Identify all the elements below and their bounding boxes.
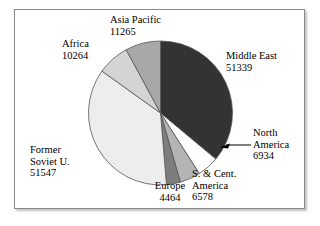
former-soviet-name-line2: Soviet U. (30, 156, 70, 168)
former-soviet-name-line1: Former (30, 144, 70, 156)
europe-name: Europe (148, 180, 192, 192)
pie-slices-group (88, 41, 232, 185)
slice-label-europe: Europe 4464 (148, 180, 192, 203)
pie-chart-figure: Asia Pacific 11265 Africa 10264 Middle E… (0, 0, 320, 226)
north-america-name-line1: North (253, 127, 289, 139)
middle-east-name: Middle East (226, 50, 277, 62)
former-soviet-value: 51547 (30, 167, 70, 179)
slice-label-s-cent-america: S. & Cent. America 6578 (192, 168, 236, 203)
north-america-value: 6934 (253, 150, 289, 162)
s-cent-america-name-line2: America (192, 180, 236, 192)
s-cent-america-value: 6578 (192, 191, 236, 203)
middle-east-value: 51339 (226, 62, 277, 74)
slice-label-africa: Africa 10264 (62, 38, 89, 61)
s-cent-america-name-line1: S. & Cent. (192, 168, 236, 180)
slice-label-middle-east: Middle East 51339 (226, 50, 277, 73)
north-america-name-line2: America (253, 139, 289, 151)
africa-name: Africa (62, 38, 89, 50)
asia-pacific-name: Asia Pacific (110, 14, 161, 26)
asia-pacific-value: 11265 (110, 26, 161, 38)
slice-label-former-soviet-union: Former Soviet U. 51547 (30, 144, 70, 179)
slice-label-north-america: North America 6934 (253, 127, 289, 162)
africa-value: 10264 (62, 50, 89, 62)
europe-value: 4464 (148, 192, 192, 204)
slice-label-asia-pacific: Asia Pacific 11265 (110, 14, 161, 37)
